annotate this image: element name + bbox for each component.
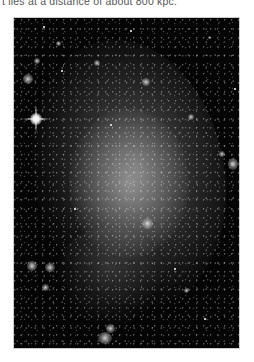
star [43,26,45,28]
caption-text: t lies at a distance of about 800 kpc. [2,0,177,7]
star-cluster [34,58,40,64]
star-cluster [98,332,112,344]
star [204,318,206,320]
bright-foreground-star [26,109,46,129]
star-cluster [142,78,150,86]
star-cluster [106,324,115,333]
star-cluster [184,288,189,293]
star-cluster [45,263,55,272]
star-cluster [188,114,194,120]
star-cluster [27,261,37,271]
star-cluster [42,284,49,291]
star [130,30,132,32]
star-cluster [228,158,238,170]
star [234,88,236,90]
star-cluster [56,41,61,46]
star [61,70,63,72]
galaxy-image [13,17,240,349]
star [110,124,112,126]
star-cluster [94,60,100,66]
star-cluster [142,218,153,229]
star-field [14,18,239,348]
star-cluster [219,151,225,157]
star [74,208,76,210]
star-cluster [23,74,33,84]
star-cluster [208,36,211,39]
star [174,268,176,270]
star-core [30,113,42,125]
